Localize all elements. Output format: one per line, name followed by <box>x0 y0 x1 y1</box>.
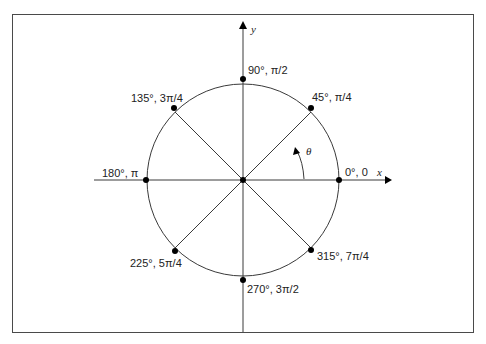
point-180 <box>143 177 149 183</box>
point-270 <box>240 277 246 283</box>
unit-circle-diagram: x y θ 0°, 0 45°, π/4 90°, π/2 135°, 3π/4… <box>0 0 486 344</box>
y-axis-arrow-icon <box>239 21 247 29</box>
label-225: 225°, 5π/4 <box>130 257 182 269</box>
center-point <box>240 177 246 183</box>
point-225 <box>172 248 178 254</box>
point-0 <box>336 177 342 183</box>
label-180: 180°, π <box>102 167 139 179</box>
y-axis-label: y <box>250 23 256 35</box>
point-135 <box>171 105 177 111</box>
x-axis-label: x <box>376 166 382 178</box>
theta-arc <box>297 151 304 179</box>
label-45: 45°, π/4 <box>312 91 352 103</box>
theta-label: θ <box>306 145 312 157</box>
point-315 <box>308 247 314 253</box>
label-90: 90°, π/2 <box>248 64 288 76</box>
point-90 <box>240 76 246 82</box>
point-45 <box>308 105 314 111</box>
x-axis-arrow-icon <box>385 176 392 184</box>
label-135: 135°, 3π/4 <box>131 92 183 104</box>
label-315: 315°, 7π/4 <box>317 250 369 262</box>
label-270: 270°, 3π/2 <box>247 283 299 295</box>
label-0: 0°, 0 <box>345 166 368 178</box>
